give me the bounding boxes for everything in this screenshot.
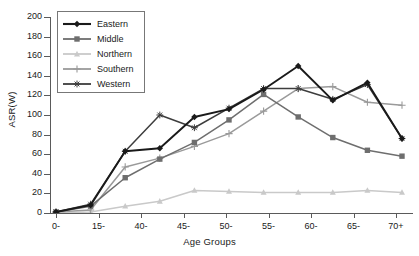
legend-label: Western xyxy=(97,79,130,89)
data-point-marker xyxy=(329,83,336,90)
data-point-marker xyxy=(73,65,80,72)
data-point-marker xyxy=(296,114,301,119)
x-tick-mark xyxy=(56,213,57,218)
data-point-marker xyxy=(123,175,128,180)
y-tick-label: 100 xyxy=(18,110,42,119)
legend-item-eastern[interactable]: Eastern xyxy=(62,16,140,31)
legend-marker-triangle-icon xyxy=(62,48,92,60)
x-tick-mark xyxy=(311,213,312,218)
x-axis-line xyxy=(50,213,413,214)
x-tick-label: 65- xyxy=(334,221,374,231)
y-tick-label: 200 xyxy=(18,12,42,21)
legend-label: Southern xyxy=(97,64,134,74)
legend-label: Eastern xyxy=(97,19,128,29)
x-tick-mark xyxy=(354,213,355,218)
y-tick-mark xyxy=(44,193,50,194)
x-tick-mark xyxy=(226,213,227,218)
data-point-marker xyxy=(398,102,405,109)
chart-legend: EasternMiddleNorthernSouthernWestern xyxy=(57,11,145,93)
y-tick-label: 120 xyxy=(18,90,42,99)
x-axis-title: Age Groups xyxy=(0,236,419,247)
data-point-marker xyxy=(156,112,163,119)
x-tick-label: 50- xyxy=(206,221,246,231)
x-tick-mark xyxy=(141,213,142,218)
legend-marker-asterisk-icon xyxy=(62,78,92,90)
y-tick-mark xyxy=(44,95,50,96)
data-point-marker xyxy=(365,148,370,153)
y-axis-tick-labels: 020406080100120140160180200 xyxy=(14,0,42,256)
x-tick-label: 70+ xyxy=(376,221,416,231)
y-tick-label: 0 xyxy=(18,208,42,217)
y-tick-mark xyxy=(44,76,50,77)
y-tick-label: 40 xyxy=(18,169,42,178)
y-tick-mark xyxy=(44,56,50,57)
data-point-marker xyxy=(364,99,371,106)
chart-container: ASR(W) 020406080100120140160180200 0-15-… xyxy=(0,0,419,256)
y-tick-label: 80 xyxy=(18,130,42,139)
legend-item-middle[interactable]: Middle xyxy=(62,31,140,46)
legend-marker-plus-icon xyxy=(62,63,92,75)
y-tick-label: 60 xyxy=(18,149,42,158)
legend-item-northern[interactable]: Northern xyxy=(62,46,140,61)
x-tick-mark xyxy=(396,213,397,218)
data-point-marker xyxy=(295,85,302,92)
x-tick-label: 45- xyxy=(164,221,204,231)
legend-label: Middle xyxy=(97,34,124,44)
x-tick-label: 60- xyxy=(291,221,331,231)
y-tick-mark xyxy=(44,37,50,38)
data-point-marker xyxy=(330,135,335,140)
x-tick-mark xyxy=(184,213,185,218)
x-tick-label: 40- xyxy=(121,221,161,231)
y-tick-label: 180 xyxy=(18,32,42,41)
x-tick-label: 0- xyxy=(36,221,76,231)
series-line xyxy=(56,190,402,213)
data-point-marker xyxy=(74,20,80,26)
y-tick-label: 160 xyxy=(18,51,42,60)
legend-item-western[interactable]: Western xyxy=(62,76,140,91)
data-point-marker xyxy=(74,80,81,87)
y-tick-mark xyxy=(44,135,50,136)
data-point-marker xyxy=(157,156,162,161)
y-tick-mark xyxy=(44,154,50,155)
x-tick-mark xyxy=(99,213,100,218)
x-tick-label: 55- xyxy=(249,221,289,231)
data-point-marker xyxy=(226,117,231,122)
data-point-marker xyxy=(191,124,198,131)
x-tick-label: 15- xyxy=(79,221,119,231)
legend-marker-square-icon xyxy=(62,33,92,45)
y-tick-label: 140 xyxy=(18,71,42,80)
x-tick-mark xyxy=(269,213,270,218)
y-tick-mark xyxy=(44,115,50,116)
data-point-marker xyxy=(399,153,404,158)
y-tick-mark xyxy=(44,174,50,175)
data-point-marker xyxy=(74,36,79,41)
data-point-marker xyxy=(192,140,197,145)
legend-label: Northern xyxy=(97,49,132,59)
y-tick-mark xyxy=(44,213,50,214)
legend-item-southern[interactable]: Southern xyxy=(62,61,140,76)
y-tick-label: 20 xyxy=(18,188,42,197)
y-tick-mark xyxy=(44,17,50,18)
legend-marker-diamond-icon xyxy=(62,18,92,30)
